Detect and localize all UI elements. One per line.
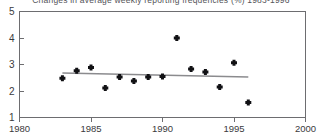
data-point-marker bbox=[231, 60, 237, 66]
x-tick-label: 1990 bbox=[152, 123, 173, 134]
x-tick-label: 2000 bbox=[295, 123, 316, 134]
data-point-marker bbox=[131, 78, 137, 84]
y-tick-label: 2 bbox=[9, 86, 15, 97]
x-tick-label: 1995 bbox=[223, 123, 244, 134]
x-tick-label: 1985 bbox=[80, 123, 101, 134]
chart-plot-area: 19801985199019952000 12345 bbox=[0, 0, 322, 136]
data-point-marker bbox=[174, 35, 180, 41]
trend-line-group bbox=[62, 73, 248, 77]
data-point-marker bbox=[88, 64, 94, 70]
data-point-marker bbox=[217, 84, 223, 90]
y-tick-label: 5 bbox=[9, 6, 15, 17]
y-tick-label: 1 bbox=[9, 112, 15, 123]
chart-figure: Changes in average weekly reporting freq… bbox=[0, 0, 322, 136]
y-tick-labels-group: 12345 bbox=[9, 6, 15, 123]
y-tick-label: 4 bbox=[9, 33, 15, 44]
data-point-marker bbox=[59, 75, 65, 81]
x-tick-labels-group: 19801985199019952000 bbox=[9, 123, 316, 134]
axes-group bbox=[20, 12, 306, 122]
data-point-marker bbox=[188, 66, 194, 72]
data-points-group bbox=[59, 35, 251, 105]
trend-line bbox=[62, 73, 248, 77]
data-point-marker bbox=[102, 85, 108, 91]
x-tick-label: 1980 bbox=[9, 123, 30, 134]
y-tick-label: 3 bbox=[9, 59, 15, 70]
data-point-marker bbox=[245, 99, 251, 105]
data-point-marker bbox=[202, 69, 208, 75]
